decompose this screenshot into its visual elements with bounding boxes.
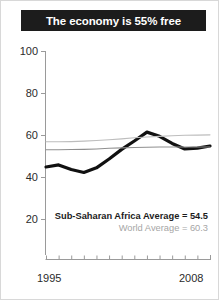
y-tick-marks [41, 52, 46, 220]
line-chart-plot: 100 80 60 40 20 Sub-Saharan Africa Avera… [1, 1, 219, 300]
y-tick-label-60: 60 [26, 129, 38, 141]
chart-figure: The economy is 55% free 100 80 60 40 20 … [0, 0, 219, 300]
y-tick-label-80: 80 [26, 87, 38, 99]
x-tick-label-end: 2008 [179, 272, 203, 284]
y-tick-label-20: 20 [26, 213, 38, 225]
series-line-world-average [46, 135, 210, 142]
annotation-sub-saharan-africa-average: Sub-Saharan Africa Average = 54.5 [55, 211, 208, 221]
x-tick-marks [47, 256, 211, 260]
annotation-world-average: World Average = 60.3 [119, 223, 208, 233]
data-series-group [46, 132, 210, 172]
x-tick-label-start: 1995 [37, 272, 61, 284]
y-tick-label-40: 40 [26, 171, 38, 183]
y-tick-label-100: 100 [20, 45, 38, 57]
